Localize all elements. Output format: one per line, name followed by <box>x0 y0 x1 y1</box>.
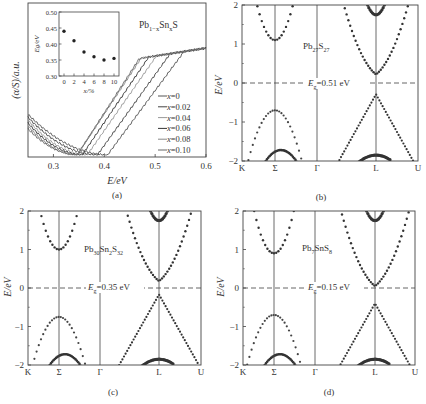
valence-band-point <box>358 124 360 126</box>
valence-band-point <box>394 128 396 130</box>
valence-band-point <box>287 121 289 123</box>
conduction-band-point <box>287 20 289 22</box>
conduction-band-point <box>353 35 355 37</box>
conduction-band-point <box>177 250 179 252</box>
conduction-band-point <box>355 256 357 258</box>
valence-band-point <box>354 367 357 370</box>
valence-band-point <box>407 360 409 362</box>
conduction-band-point <box>406 218 408 220</box>
y-tick-label: 0 <box>235 283 240 293</box>
conduction-band-point <box>260 233 262 235</box>
conduction-band-point <box>51 244 53 246</box>
conduction-band-point <box>345 13 347 15</box>
conduction-band-point <box>167 207 170 210</box>
valence-band-point <box>292 340 294 342</box>
valence-band-point <box>360 326 362 328</box>
conduction-band-point <box>148 269 150 271</box>
y-tick-label: 1 <box>234 39 239 49</box>
valence-band-point <box>47 325 49 327</box>
conduction-band-point <box>352 247 354 249</box>
valence-band-point <box>182 336 184 338</box>
valence-band-point <box>406 148 408 150</box>
conduction-band-point <box>356 44 358 46</box>
valence-band-point <box>369 104 371 106</box>
valence-band-point <box>350 139 352 141</box>
valence-band-point <box>396 341 398 343</box>
panel-c-caption: (c) <box>108 387 118 397</box>
conduction-band-point <box>339 207 341 209</box>
conduction-band-point <box>370 281 372 283</box>
conduction-band-point <box>173 258 175 260</box>
conduction-band-point <box>364 207 367 210</box>
valence-band-point <box>364 113 366 115</box>
legend-label: x=0.04 <box>166 113 191 123</box>
y-tick-label: −1 <box>229 322 239 332</box>
conduction-band-point <box>257 227 259 229</box>
valence-band-point <box>258 126 260 128</box>
valence-band-point <box>367 107 369 109</box>
valence-band-point <box>259 327 261 329</box>
k-point-label: Γ <box>97 367 102 377</box>
conduction-band-point <box>73 223 75 225</box>
valence-band-point <box>138 367 141 370</box>
conduction-band-point <box>382 275 384 277</box>
valence-band-point <box>36 351 38 353</box>
valence-band-point <box>341 360 343 362</box>
panel-c-labels: Pb30Sn2S32 Eg=0.35 eV E/eV (c) <box>2 244 131 397</box>
valence-band-point <box>348 349 350 351</box>
valence-band-point <box>383 108 385 110</box>
valence-band-point <box>353 133 355 135</box>
conduction-band-point <box>125 208 127 210</box>
conduction-band-point <box>181 240 183 242</box>
conduction-band-point <box>358 48 360 50</box>
valence-band-point <box>265 115 267 117</box>
valence-band-point <box>296 143 298 145</box>
valence-band-point <box>272 110 274 112</box>
conduction-band-point <box>282 244 284 246</box>
y-tick-label: −2 <box>229 360 239 370</box>
conduction-band-point <box>404 224 406 226</box>
valence-band-point <box>290 334 292 336</box>
valence-band-point <box>168 311 170 313</box>
valence-band-point <box>149 310 151 312</box>
inset-x-tick-label: 10 <box>111 78 118 85</box>
valence-band-point <box>254 137 256 139</box>
conduction-band-point <box>360 52 362 54</box>
valence-band-point <box>51 319 53 321</box>
conduction-band-point <box>163 275 165 277</box>
valence-band-point <box>173 319 175 321</box>
k-point-label: U <box>412 367 419 377</box>
valence-band-point <box>388 117 390 119</box>
valence-band-point <box>383 318 385 320</box>
legend-item: x=0.04 <box>158 113 191 123</box>
conduction-band-point <box>166 270 168 272</box>
inset-data-point <box>112 57 115 60</box>
y-tick-label: 2 <box>234 0 239 10</box>
valence-band-point <box>385 111 387 113</box>
valence-band-point <box>366 110 368 112</box>
inset-ylabel: Eg/eV <box>33 35 41 54</box>
k-point-label: L <box>373 163 379 173</box>
valence-band-point <box>402 352 404 354</box>
y-tick-label: −2 <box>228 156 238 166</box>
conduction-band-point <box>263 26 265 28</box>
conduction-band-point <box>389 263 391 265</box>
conduction-band-point <box>269 37 271 39</box>
conduction-band-point <box>388 266 390 268</box>
conduction-band-point <box>264 244 266 246</box>
valence-band-point <box>300 157 302 159</box>
conduction-band-point <box>182 235 184 237</box>
inset-x-tick-label: 8 <box>102 78 105 85</box>
conduction-band-point <box>363 59 365 61</box>
valence-band-point <box>278 110 280 112</box>
conduction-band-point <box>132 232 134 234</box>
inset-x-tick-label: 6 <box>92 78 96 85</box>
k-point-label: L <box>372 367 378 377</box>
valence-band-point <box>263 162 266 165</box>
valence-band-point <box>268 315 270 317</box>
valence-band-point <box>294 136 296 138</box>
valence-band-point <box>185 342 187 344</box>
k-point-label: U <box>198 367 205 377</box>
conduction-band-point <box>384 273 386 275</box>
panel-a-legend: x=0x=0.02x=0.04x=0.06x=0.08x=0.10 <box>158 91 191 155</box>
